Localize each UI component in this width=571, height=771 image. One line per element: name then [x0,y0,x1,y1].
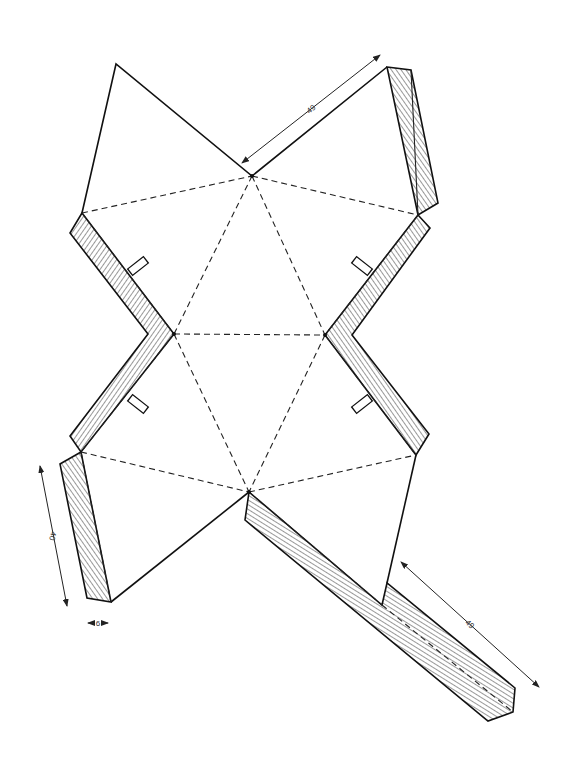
dim-label-left: 40 [47,531,58,542]
glue-tab-left-zigzag [70,213,174,452]
net-diagram: 49 40 6 49 [0,0,571,771]
dimension-left: 40 [40,466,67,606]
fold-lines [81,70,513,712]
glue-tab-top-right [387,67,438,215]
cut-lower-left-triangle [111,492,249,602]
slot-right-lower [352,395,373,414]
dimension-tab-width: 6 [88,619,108,628]
glue-strip-bottom [245,492,515,721]
glue-tab-right-zigzag [325,215,430,455]
slot-left-lower [128,395,149,414]
dim-label-tab-width: 6 [96,619,101,628]
cut-top-left-triangle [82,64,387,213]
cut-lower-right-triangle [387,455,416,583]
slot-left-upper [128,257,149,276]
glue-tabs [60,67,515,721]
net-svg: 49 40 6 49 [0,0,571,771]
dimension-top: 49 [242,55,380,163]
slot-right-upper [352,257,373,276]
